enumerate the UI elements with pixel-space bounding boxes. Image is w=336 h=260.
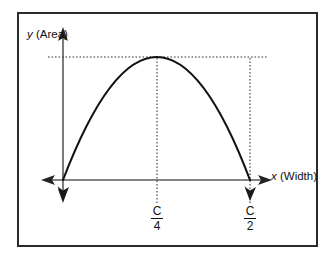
tick-c2-denominator: 2 bbox=[247, 219, 254, 232]
y-axis-label-text: (Area) bbox=[33, 28, 68, 40]
figure-caption-text: Find the maximum area if the total amoun… bbox=[0, 0, 336, 3]
x-axis-label: x (Width) bbox=[271, 170, 317, 182]
tick-c4-numerator: C bbox=[151, 205, 164, 219]
tick-label-c-over-2: C 2 bbox=[239, 205, 261, 232]
y-axis-label: y (Area) bbox=[27, 28, 68, 40]
tick-c2-numerator: C bbox=[244, 205, 257, 219]
tick-c4-denominator: 4 bbox=[154, 219, 161, 232]
figure-caption: Find the maximum area if the total amoun… bbox=[0, 0, 336, 3]
tick-label-c-over-4: C 4 bbox=[146, 205, 168, 232]
x-axis-label-text: (Width) bbox=[277, 170, 317, 182]
